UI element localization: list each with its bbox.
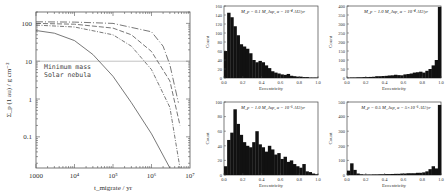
- histogram-top-right: 0501001502002503003504000.00.20.40.60.81…: [323, 0, 446, 96]
- migration-surface-density-plot: 100010⁴10⁵10⁶10⁷1001010.1t_migrate / yrΣ…: [0, 0, 200, 193]
- hist-bar: [249, 53, 252, 78]
- x-tick-label: 1000: [29, 172, 44, 180]
- hist-bar: [230, 133, 233, 175]
- y-tick-label: 20: [218, 67, 223, 72]
- hist-bar: [353, 170, 356, 175]
- hist-bar: [432, 166, 435, 175]
- hist-bar: [425, 71, 428, 78]
- hist-bar: [237, 35, 240, 78]
- hist-bar: [413, 73, 416, 78]
- hist-bar: [312, 174, 315, 175]
- hist-bar: [258, 144, 261, 175]
- x-tick-label: 0.8: [296, 177, 302, 182]
- hist-bar: [391, 75, 394, 78]
- x-tick-label: 1.0: [438, 177, 444, 182]
- hist-bar: [274, 155, 277, 175]
- y-tick-label: 100: [215, 31, 223, 36]
- hist-bar: [372, 174, 375, 175]
- hist-bar: [271, 149, 274, 175]
- plot-frame: [36, 12, 190, 168]
- hist-bar: [309, 172, 312, 175]
- hist-bar: [227, 13, 230, 78]
- x-axis-label: Eccentricity: [259, 86, 284, 91]
- hist-bar: [280, 159, 283, 175]
- hist-bar: [360, 77, 363, 78]
- y-tick-label: 100: [22, 20, 33, 28]
- x-tick-label: 0.0: [221, 177, 227, 182]
- y-tick-label: 120: [215, 22, 223, 27]
- histogram-svg: 0204060801000.00.20.40.60.81.0Eccentrici…: [200, 96, 323, 193]
- hist-bar: [350, 163, 353, 175]
- hist-bar: [353, 77, 356, 78]
- y-tick-label: 100: [338, 58, 346, 63]
- hist-bar: [416, 72, 419, 78]
- hist-bar: [249, 147, 252, 175]
- y-tick-label: 10: [25, 58, 33, 66]
- hist-bar: [413, 173, 416, 175]
- histogram-svg: 0204060801001201401600.00.20.40.60.81.0E…: [200, 0, 323, 96]
- hist-bar: [438, 7, 441, 78]
- hist-bar: [299, 77, 302, 78]
- left-plot-svg: 100010⁴10⁵10⁶10⁷1001010.1t_migrate / yrΣ…: [0, 0, 200, 193]
- hist-bar: [284, 75, 287, 78]
- series-line-solid: [36, 31, 170, 169]
- y-tick-label: 160: [215, 4, 223, 9]
- y-axis-label: Count: [205, 132, 210, 145]
- hist-bar: [255, 62, 258, 78]
- x-tick-label: 0.6: [401, 177, 407, 182]
- y-tick-label: 200: [338, 40, 346, 45]
- hist-bar: [403, 174, 406, 175]
- y-tick-label: 40: [218, 144, 223, 149]
- x-tick-label: 0.2: [363, 177, 369, 182]
- hist-bar: [277, 153, 280, 175]
- x-tick-label: 0.6: [278, 80, 284, 85]
- hist-frame: [347, 102, 441, 175]
- hist-bar: [394, 174, 397, 175]
- hist-bar: [388, 75, 391, 78]
- hist-bar: [224, 166, 227, 175]
- y-tick-label: 40: [218, 58, 223, 63]
- hist-bar: [428, 69, 431, 78]
- hist-bar: [391, 174, 394, 175]
- hist-bar: [262, 62, 265, 78]
- hist-bar: [394, 75, 397, 78]
- x-tick-label: 0.4: [382, 177, 388, 182]
- hist-bar: [403, 74, 406, 78]
- y-tick-label: 80: [218, 40, 223, 45]
- hist-bar: [356, 174, 359, 175]
- y-tick-label: 20: [218, 158, 223, 163]
- hist-bar: [422, 73, 425, 78]
- y-axis-label: Count: [328, 132, 333, 145]
- y-tick-label: 350: [338, 13, 346, 18]
- hist-bar: [302, 77, 305, 78]
- hist-bar: [360, 174, 363, 175]
- hist-bar: [246, 49, 249, 78]
- hist-bar: [435, 60, 438, 78]
- hist-bar: [252, 142, 255, 175]
- hist-bar: [378, 76, 381, 78]
- y-tick-label: 300: [338, 129, 346, 134]
- hist-bar: [287, 162, 290, 175]
- y-tick-label: 1: [29, 96, 33, 104]
- y-tick-label: 400: [338, 4, 346, 9]
- hist-bar: [243, 142, 246, 175]
- x-tick-label: 0.4: [259, 80, 265, 85]
- hist-bar: [293, 76, 296, 78]
- x-tick-label: 0.2: [240, 80, 246, 85]
- hist-bar: [369, 77, 372, 78]
- hist-bar: [375, 76, 378, 78]
- x-tick-label: 10⁴: [70, 172, 80, 180]
- annotation-line2: Solar nebula: [44, 71, 91, 79]
- hist-bar: [410, 74, 413, 79]
- hist-bar: [230, 17, 233, 78]
- hist-bar: [274, 73, 277, 78]
- hist-bar: [385, 76, 388, 78]
- y-tick-label: 0.1: [23, 133, 32, 141]
- hist-bar: [243, 47, 246, 79]
- hist-bar: [240, 44, 243, 78]
- hist-bar: [372, 77, 375, 78]
- hist-bar: [428, 169, 431, 175]
- hist-bar: [302, 164, 305, 175]
- hist-bar: [262, 147, 265, 175]
- hist-bar: [305, 77, 308, 78]
